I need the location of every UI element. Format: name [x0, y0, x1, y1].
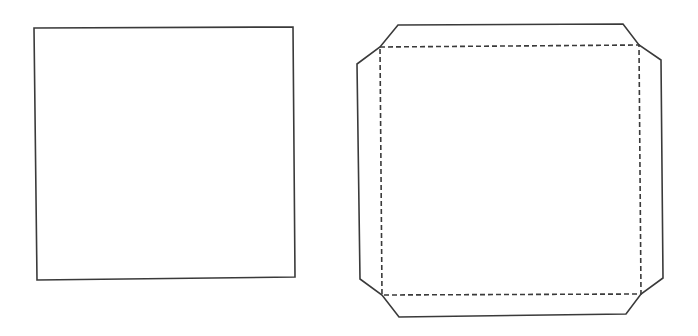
flat-square [34, 27, 295, 280]
diagram-canvas [0, 0, 698, 336]
fold-lines-dashed [380, 45, 641, 295]
box-net-outline [357, 24, 663, 317]
